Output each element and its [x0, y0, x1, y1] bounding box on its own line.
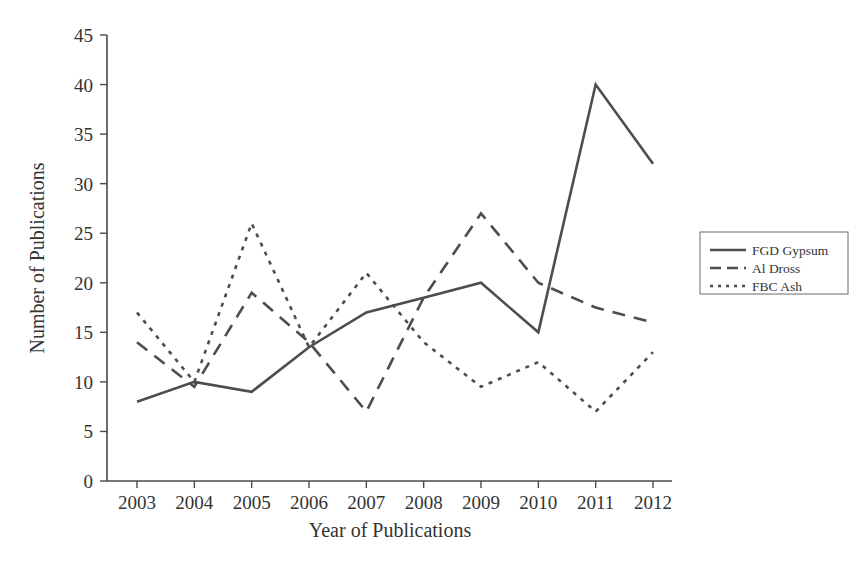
y-tick-label: 0	[84, 471, 94, 492]
x-tick-label: 2007	[347, 492, 385, 513]
y-tick-label: 15	[74, 322, 93, 343]
x-tick-label: 2008	[405, 492, 443, 513]
y-tick-label: 5	[84, 421, 94, 442]
y-tick-label: 30	[74, 174, 93, 195]
data-series-group	[137, 85, 653, 412]
x-tick-label: 2004	[175, 492, 214, 513]
x-tick-label-group: 2003200420052006200720082009201020112012	[118, 492, 672, 513]
x-tick-label: 2003	[118, 492, 156, 513]
y-tick-label: 25	[74, 223, 93, 244]
legend: FGD GypsumAl DrossFBC Ash	[700, 232, 848, 294]
y-tick-label: 20	[74, 273, 93, 294]
line-chart: 051015202530354045 200320042005200620072…	[0, 0, 860, 564]
series-line-al-dross	[137, 213, 653, 411]
y-tick-label: 35	[74, 124, 93, 145]
x-tick-label: 2006	[290, 492, 328, 513]
legend-label-al-dross: Al Dross	[752, 261, 800, 276]
y-tick-label: 40	[74, 75, 93, 96]
y-axis-title: Number of Publications	[26, 162, 48, 353]
x-tick-group	[137, 481, 653, 488]
chart-figure: 051015202530354045 200320042005200620072…	[0, 0, 860, 564]
y-tick-label: 10	[74, 372, 93, 393]
x-tick-label: 2009	[462, 492, 500, 513]
x-axis-title: Year of Publications	[309, 519, 472, 541]
series-line-fbc-ash	[137, 223, 653, 411]
x-tick-label: 2012	[634, 492, 672, 513]
x-tick-label: 2011	[577, 492, 614, 513]
y-tick-group	[100, 35, 107, 481]
y-tick-label: 45	[74, 25, 93, 46]
legend-label-fgd-gypsum: FGD Gypsum	[752, 243, 829, 258]
x-tick-label: 2005	[233, 492, 271, 513]
legend-label-fbc-ash: FBC Ash	[752, 279, 802, 294]
y-tick-label-group: 051015202530354045	[74, 25, 93, 492]
axis-group	[107, 35, 672, 481]
x-tick-label: 2010	[519, 492, 557, 513]
